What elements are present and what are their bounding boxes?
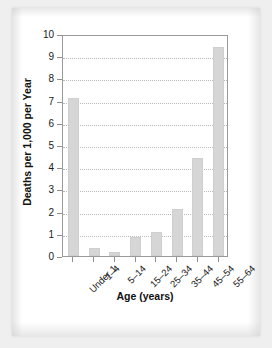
bar — [89, 248, 100, 256]
x-axis-tick-label: 15–24 — [147, 263, 173, 289]
y-axis-tick-label: 0 — [14, 252, 54, 262]
x-axis-title: Age (years) — [62, 290, 228, 302]
y-axis-tick — [57, 257, 62, 258]
x-axis-tick — [155, 257, 156, 262]
bar — [68, 98, 79, 256]
x-axis-tick — [93, 257, 94, 262]
y-axis-tick-label: 5 — [14, 141, 54, 151]
plot-frame — [62, 35, 228, 257]
x-axis-tick — [72, 257, 73, 262]
y-axis-tick-label: 2 — [14, 208, 54, 218]
y-axis-tick-label: 3 — [14, 185, 54, 195]
x-axis-tick — [197, 257, 198, 262]
bar — [151, 232, 162, 256]
x-axis-tick-label: 55–64 — [230, 263, 256, 289]
gridline — [63, 147, 227, 148]
x-axis-tick-label: 45–54 — [210, 263, 236, 289]
bar — [172, 209, 183, 256]
y-axis-tick-label: 8 — [14, 74, 54, 84]
bar — [213, 47, 224, 256]
y-axis-tick-label: 4 — [14, 163, 54, 173]
bar — [130, 237, 141, 256]
y-axis-tick-label: 6 — [14, 119, 54, 129]
x-axis-tick — [114, 257, 115, 262]
x-axis-tick-label: 25–34 — [168, 263, 194, 289]
y-axis-tick-label: 10 — [14, 30, 54, 40]
bar — [192, 158, 203, 256]
x-axis-tick — [176, 257, 177, 262]
y-axis-tick-label: 1 — [14, 230, 54, 240]
gridline — [63, 125, 227, 126]
gridline — [63, 103, 227, 104]
x-axis-tick-label: 5–14 — [125, 263, 148, 286]
y-axis-tick-label: 9 — [14, 52, 54, 62]
x-axis-tick — [135, 257, 136, 262]
x-axis-tick — [218, 257, 219, 262]
gridline — [63, 80, 227, 81]
y-axis-tick-label: 7 — [14, 97, 54, 107]
bar — [109, 252, 120, 256]
bar-chart-figure: Deaths per 1,000 per Year 012345678910 U… — [0, 0, 272, 348]
gridline — [63, 58, 227, 59]
plot-area — [63, 36, 227, 256]
x-axis-tick-label: 35–44 — [189, 263, 215, 289]
